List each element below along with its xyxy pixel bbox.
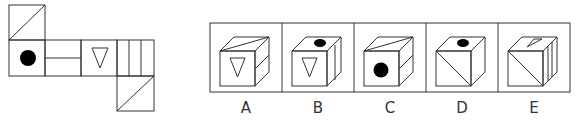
option-label-c: C: [354, 99, 426, 117]
black-dot-icon: [20, 50, 36, 66]
net-face-triangle: [81, 40, 117, 76]
option-a-cube[interactable]: [220, 37, 269, 86]
option-e-cube[interactable]: [508, 37, 557, 86]
option-label-b: B: [282, 99, 354, 117]
option-label-d: D: [426, 99, 498, 117]
option-label-a: A: [210, 99, 282, 117]
options-frame: [210, 23, 570, 92]
net-face-stripes: [117, 40, 154, 76]
diagonal-line-icon: [117, 76, 154, 111]
inverted-triangle-icon: [92, 48, 108, 68]
diagonal-line-icon: [9, 5, 45, 40]
option-c-cube[interactable]: [364, 37, 413, 86]
option-label-e: E: [498, 99, 570, 117]
